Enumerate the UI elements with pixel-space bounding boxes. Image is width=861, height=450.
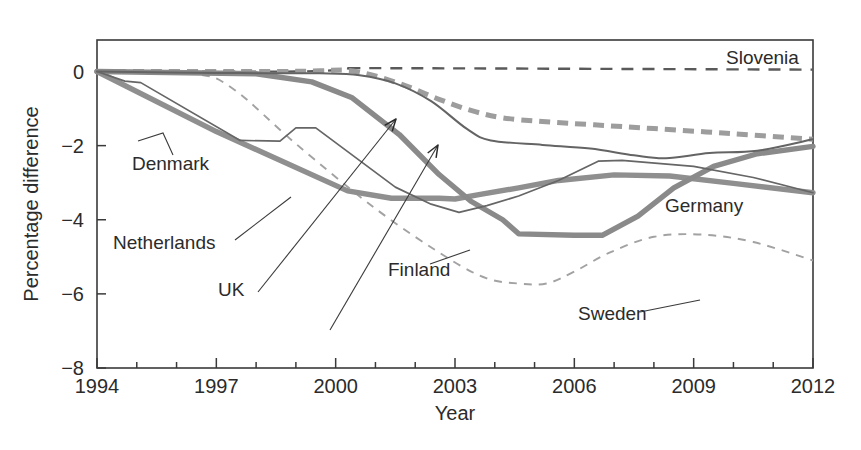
- x-axis-title: Year: [435, 402, 476, 424]
- series-label-sweden: Sweden: [578, 303, 647, 324]
- x-tick-label-0: 1994: [75, 375, 120, 397]
- series-label-slovenia: Slovenia: [726, 47, 799, 68]
- series-label-denmark: Denmark: [132, 153, 210, 174]
- series-label-netherlands: Netherlands: [113, 232, 215, 253]
- x-tick-label-4: 2006: [552, 375, 597, 397]
- y-axis-title: Percentage difference: [20, 106, 42, 301]
- y-tick-label-1: −2: [61, 135, 84, 157]
- y-tick-label-3: −6: [61, 283, 84, 305]
- x-tick-label-5: 2009: [671, 375, 716, 397]
- series-label-uk: UK: [218, 279, 245, 300]
- y-tick-label-2: −4: [61, 209, 84, 231]
- chart-figure: 0−2−4−6−81994199720002003200620092012Yea…: [0, 0, 861, 450]
- x-tick-label-1: 1997: [194, 375, 239, 397]
- x-tick-label-6: 2012: [791, 375, 836, 397]
- x-tick-label-3: 2003: [433, 375, 478, 397]
- series-label-finland: Finland: [388, 259, 450, 280]
- y-tick-label-0: 0: [73, 61, 84, 83]
- series-label-germany: Germany: [665, 195, 744, 216]
- x-tick-label-2: 2000: [313, 375, 358, 397]
